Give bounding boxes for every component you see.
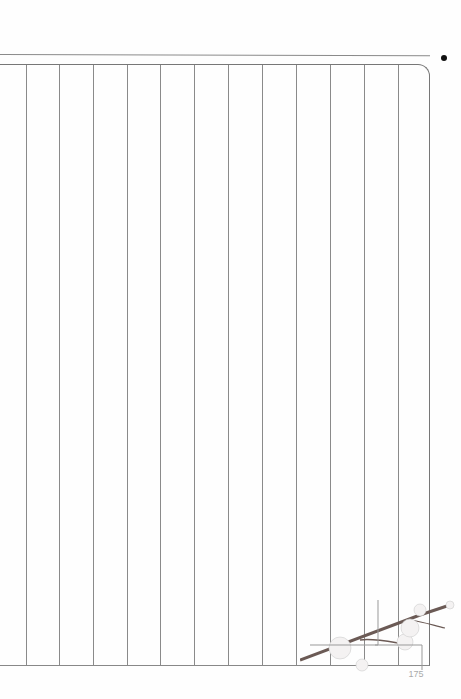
column-line — [398, 65, 399, 665]
column-line — [93, 65, 94, 665]
column-line — [26, 65, 27, 665]
plum-blossom-branch-icon — [300, 600, 461, 699]
page-number: 175 — [405, 669, 427, 679]
column-line — [330, 65, 331, 665]
column-line — [127, 65, 128, 665]
writing-frame — [0, 64, 430, 666]
dot-icon — [441, 55, 447, 61]
top-rule-line — [0, 54, 430, 56]
column-line — [228, 65, 229, 665]
column-line — [160, 65, 161, 665]
column-line — [59, 65, 60, 665]
column-line — [364, 65, 365, 665]
column-line — [262, 65, 263, 665]
notebook-page: 175 — [0, 0, 461, 699]
column-line — [296, 65, 297, 665]
column-line — [194, 65, 195, 665]
